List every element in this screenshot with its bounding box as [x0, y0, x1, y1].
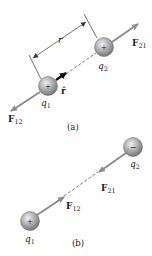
force-f21-label: F21: [132, 38, 147, 50]
charge-q1-label-b: q1: [25, 234, 35, 246]
charge-q1-sign: +: [45, 83, 51, 91]
force-f12-label-b: F12: [66, 201, 81, 213]
panel-a: r F21 F12 r̂ + q1 + q2 (a): [8, 14, 147, 132]
separation-dashed-line: [66, 53, 96, 74]
force-f12-arrow: [11, 92, 40, 111]
charge-q2-sphere: +: [95, 38, 114, 57]
force-f21-label-b: F21: [101, 183, 116, 195]
force-f12-arrow-b: [37, 197, 64, 215]
charge-q2-sphere-b: −: [124, 138, 143, 157]
panel-a-caption: (a): [67, 122, 79, 132]
force-f12-label: F12: [8, 114, 23, 126]
panel-b-caption: (b): [72, 238, 84, 248]
extension-line-q2: [84, 14, 97, 38]
panel-b: F21 F12 − q2 + q1 (b): [21, 138, 143, 249]
charge-q1-sphere-b: +: [21, 212, 40, 231]
force-f21-arrow-b: [99, 153, 126, 172]
charge-q1-sphere: +: [39, 77, 58, 96]
charge-q2-sign: +: [101, 44, 107, 52]
charge-q2-label-b: q2: [130, 159, 140, 171]
charge-q1-sign-b: +: [27, 218, 33, 226]
distance-r-label: r: [58, 35, 63, 45]
separation-dashed-line-b: [64, 172, 98, 196]
coulomb-force-diagram: r F21 F12 r̂ + q1 + q2 (a) F21: [0, 0, 152, 256]
charge-q2-label: q2: [98, 61, 108, 73]
charge-q2-sign-b: −: [130, 143, 137, 152]
unit-vector-rhat-arrow: [56, 73, 66, 80]
charge-q1-label: q1: [41, 98, 51, 110]
extension-line-q1: [29, 55, 41, 79]
unit-vector-rhat-label: r̂: [61, 86, 66, 96]
